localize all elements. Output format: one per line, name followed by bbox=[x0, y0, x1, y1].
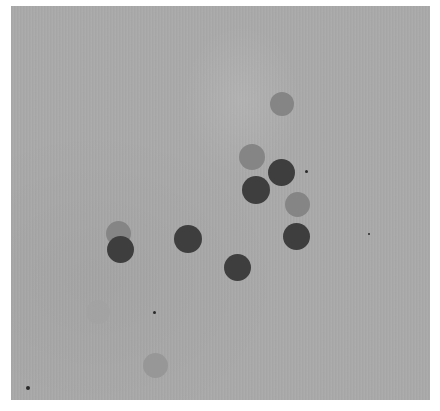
spot-right-dark bbox=[283, 223, 310, 250]
spot-center bbox=[174, 225, 202, 253]
speck bbox=[368, 233, 370, 235]
spot-right-medium bbox=[285, 192, 310, 217]
spot-upper-cluster-2 bbox=[268, 159, 295, 186]
speck bbox=[26, 386, 30, 390]
speck bbox=[153, 311, 156, 314]
spot-upper-cluster-1 bbox=[239, 144, 265, 170]
spot-top-right bbox=[270, 92, 294, 116]
speck bbox=[305, 170, 308, 173]
spot-bottom bbox=[143, 353, 168, 378]
spot-faint-lower-left bbox=[86, 300, 110, 324]
spot-left-front bbox=[107, 236, 134, 263]
photo-stage bbox=[0, 0, 440, 411]
spot-lower-center bbox=[224, 254, 251, 281]
spot-upper-cluster-3 bbox=[242, 176, 270, 204]
paper-background bbox=[11, 6, 430, 400]
